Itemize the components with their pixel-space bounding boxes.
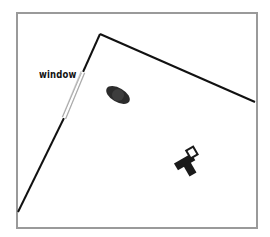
wall-left-lower (18, 118, 64, 212)
window-label: window (39, 69, 77, 80)
t-shaped-object[interactable] (171, 147, 205, 180)
wall-left-upper (83, 34, 100, 72)
round-object[interactable] (103, 82, 133, 107)
floor-plan-canvas: window (0, 0, 270, 237)
plan-drawing (0, 0, 270, 237)
